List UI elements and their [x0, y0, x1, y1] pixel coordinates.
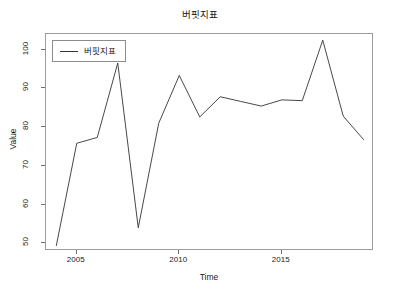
y-tick-label: 60: [21, 192, 30, 214]
chart-legend: 버핏지표: [52, 40, 126, 62]
series-line: [56, 40, 364, 246]
chart-title: 버핏지표: [0, 9, 400, 21]
y-tick-label: 90: [21, 76, 30, 98]
legend-line-icon: [60, 51, 78, 52]
y-axis-title: Value: [8, 114, 18, 164]
legend-item-label: 버핏지표: [84, 46, 116, 56]
plot-area: 버핏지표: [45, 33, 373, 250]
x-tick-label: 2005: [56, 255, 96, 264]
y-tick-label: 50: [21, 231, 30, 253]
y-tick-label: 70: [21, 153, 30, 175]
chart-container: 버핏지표 Value Time 5060708090100 2005201020…: [0, 0, 400, 298]
y-tick-label: 100: [21, 37, 30, 59]
x-axis-title: Time: [45, 272, 373, 282]
x-tick-label: 2010: [158, 255, 198, 264]
y-tick-label: 80: [21, 115, 30, 137]
series-line-chart: [46, 34, 374, 251]
x-tick-label: 2015: [261, 255, 301, 264]
